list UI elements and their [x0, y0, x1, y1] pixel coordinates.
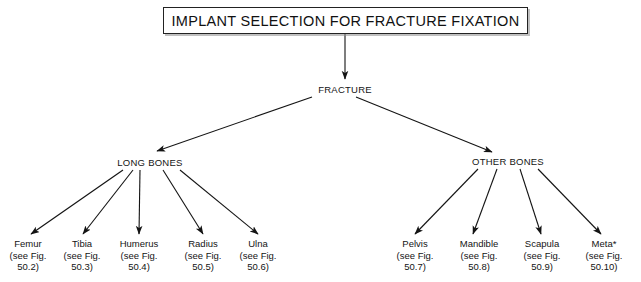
leaf-tibia-name: Tibia: [64, 238, 101, 250]
connector-fracture-to-long-bones: [157, 97, 312, 151]
leaf-humerus-name: Humerus: [120, 238, 159, 250]
leaf-tibia: Tibia (see Fig. 50.3): [64, 238, 101, 273]
leaf-femur: Femur (see Fig. 50.2): [10, 238, 47, 273]
leaf-mandible-name: Mandible: [460, 238, 499, 250]
connector-long-bones-to-radius: [163, 170, 203, 234]
connector-other-bones-to-meta: [538, 169, 601, 234]
leaf-tibia-ref-line1: (see Fig.: [64, 250, 101, 262]
leaf-humerus: Humerus (see Fig. 50.4): [120, 238, 159, 273]
leaf-ulna-ref-line1: (see Fig.: [240, 250, 277, 262]
leaf-mandible: Mandible (see Fig. 50.8): [460, 238, 499, 273]
leaf-radius: Radius (see Fig. 50.5): [185, 238, 222, 273]
page-title: IMPLANT SELECTION FOR FRACTURE FIXATION: [172, 13, 520, 29]
connector-other-bones-to-mandible: [473, 169, 497, 234]
leaf-femur-ref-line2: 50.2): [10, 261, 47, 273]
connector-other-bones-to-scapula: [520, 169, 541, 234]
leaf-humerus-ref-line2: 50.4): [120, 261, 159, 273]
leaf-ulna-ref-line2: 50.6): [240, 261, 277, 273]
connector-long-bones-to-femur: [31, 170, 123, 234]
leaf-pelvis-ref-line1: (see Fig.: [397, 250, 434, 262]
connector-long-bones-to-ulna: [180, 170, 258, 234]
connector-other-bones-to-pelvis: [415, 169, 478, 234]
leaf-scapula-ref-line1: (see Fig.: [524, 250, 561, 262]
title-box: IMPLANT SELECTION FOR FRACTURE FIXATION: [163, 7, 528, 34]
node-other-bones: OTHER BONES: [472, 156, 544, 167]
leaf-meta-ref-line1: (see Fig.: [586, 250, 623, 262]
leaf-humerus-ref-line1: (see Fig.: [120, 250, 159, 262]
leaf-meta: Meta* (see Fig. 50.10): [586, 238, 623, 273]
leaf-radius-ref-line2: 50.5): [185, 261, 222, 273]
node-long-bones: LONG BONES: [117, 157, 182, 168]
leaf-mandible-ref-line1: (see Fig.: [460, 250, 499, 262]
leaf-scapula-name: Scapula: [524, 238, 561, 250]
leaf-ulna-name: Ulna: [240, 238, 277, 250]
node-fracture: FRACTURE: [318, 84, 372, 95]
leaf-femur-name: Femur: [10, 238, 47, 250]
flowchart-diagram: IMPLANT SELECTION FOR FRACTURE FIXATION …: [0, 0, 641, 282]
leaf-scapula: Scapula (see Fig. 50.9): [524, 238, 561, 273]
leaf-radius-name: Radius: [185, 238, 222, 250]
leaf-tibia-ref-line2: 50.3): [64, 261, 101, 273]
leaf-pelvis-name: Pelvis: [397, 238, 434, 250]
leaf-radius-ref-line1: (see Fig.: [185, 250, 222, 262]
leaf-scapula-ref-line2: 50.9): [524, 261, 561, 273]
leaf-meta-ref-line2: 50.10): [586, 261, 623, 273]
leaf-femur-ref-line1: (see Fig.: [10, 250, 47, 262]
connector-long-bones-to-humerus: [139, 170, 140, 234]
leaf-pelvis-ref-line2: 50.7): [397, 261, 434, 273]
leaf-ulna: Ulna (see Fig. 50.6): [240, 238, 277, 273]
connector-long-bones-to-tibia: [83, 170, 133, 234]
connector-fracture-to-other-bones: [356, 97, 492, 152]
leaf-meta-name: Meta*: [586, 238, 623, 250]
leaf-pelvis: Pelvis (see Fig. 50.7): [397, 238, 434, 273]
leaf-mandible-ref-line2: 50.8): [460, 261, 499, 273]
